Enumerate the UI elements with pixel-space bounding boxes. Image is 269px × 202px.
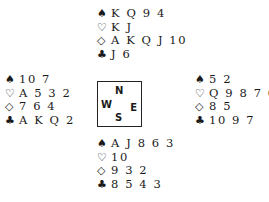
east-clubs: ♣10 9 7 <box>195 114 269 128</box>
north-clubs: ♣J 6 <box>97 48 187 62</box>
south-spades: ♠A J 8 6 3 <box>97 137 175 151</box>
west-hearts: ♡A 5 3 2 <box>5 87 75 101</box>
compass-west: W <box>101 99 112 110</box>
diamond-icon: ◇ <box>97 34 111 48</box>
club-icon: ♣ <box>97 178 111 192</box>
heart-icon: ♡ <box>97 151 111 165</box>
spade-icon: ♠ <box>5 73 19 87</box>
compass-east: E <box>130 102 137 113</box>
diamond-icon: ◇ <box>97 164 111 178</box>
west-clubs: ♣A K Q 2 <box>5 114 75 128</box>
compass-north: N <box>115 85 123 96</box>
north-hearts: ♡K J <box>97 21 187 35</box>
east-spades: ♠5 2 <box>195 73 269 87</box>
west-diamonds: ◇7 6 4 <box>5 100 75 114</box>
east-hand: ♠5 2 ♡Q 9 8 7 6 4 ◇8 5 ♣10 9 7 <box>195 73 269 128</box>
north-spades: ♠K Q 9 4 <box>97 7 187 21</box>
east-diamonds: ◇8 5 <box>195 100 269 114</box>
diamond-icon: ◇ <box>195 100 209 114</box>
west-spades: ♠10 7 <box>5 73 75 87</box>
spade-icon: ♠ <box>195 73 209 87</box>
south-hearts: ♡10 <box>97 151 175 165</box>
north-diamonds: ◇A K Q J 10 <box>97 34 187 48</box>
heart-icon: ♡ <box>5 87 19 101</box>
compass-south: S <box>115 112 122 123</box>
heart-icon: ♡ <box>97 21 111 35</box>
heart-icon: ♡ <box>195 87 209 101</box>
south-hand: ♠A J 8 6 3 ♡10 ◇9 3 2 ♣8 5 4 3 <box>97 137 175 192</box>
south-clubs: ♣8 5 4 3 <box>97 178 175 192</box>
club-icon: ♣ <box>97 48 111 62</box>
spade-icon: ♠ <box>97 137 111 151</box>
diamond-icon: ◇ <box>5 100 19 114</box>
south-diamonds: ◇9 3 2 <box>97 164 175 178</box>
spade-icon: ♠ <box>97 7 111 21</box>
club-icon: ♣ <box>5 114 19 128</box>
west-hand: ♠10 7 ♡A 5 3 2 ◇7 6 4 ♣A K Q 2 <box>5 73 75 128</box>
compass-box: N W E S <box>97 81 142 127</box>
club-icon: ♣ <box>195 114 209 128</box>
north-hand: ♠K Q 9 4 ♡K J ◇A K Q J 10 ♣J 6 <box>97 7 187 62</box>
east-hearts: ♡Q 9 8 7 6 4 <box>195 87 269 101</box>
